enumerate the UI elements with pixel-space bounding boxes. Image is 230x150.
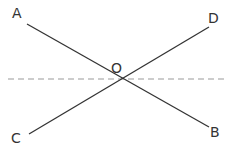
diagram-svg: A D O C B — [0, 0, 230, 150]
label-o: O — [111, 60, 122, 76]
label-d: D — [208, 10, 219, 26]
label-a: A — [12, 5, 22, 21]
segment-cd — [29, 27, 209, 134]
label-b: B — [210, 124, 220, 140]
diagram-canvas: A D O C B — [0, 0, 230, 150]
label-c: C — [11, 130, 21, 146]
